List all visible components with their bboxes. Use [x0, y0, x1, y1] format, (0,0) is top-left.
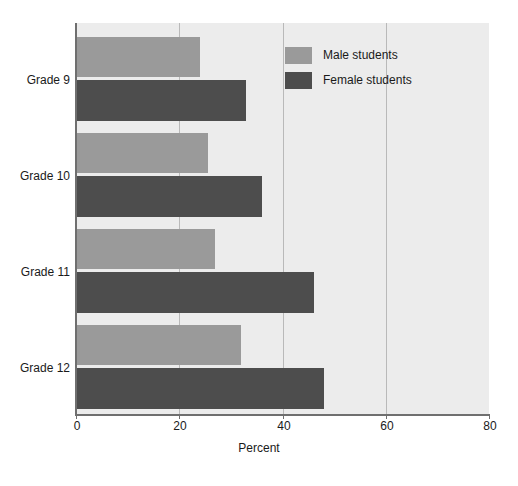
chart-legend: Male students Female students — [285, 45, 460, 95]
legend-item-male: Male students — [285, 45, 460, 65]
y-axis-line — [75, 23, 77, 414]
x-axis-title: Percent — [0, 441, 518, 455]
bar-grade-10-female — [76, 176, 262, 217]
y-axis-label-grade-12: Grade 12 — [2, 361, 70, 375]
legend-swatch-male-icon — [285, 47, 312, 64]
legend-label-male: Male students — [323, 48, 398, 62]
x-axis-line — [75, 414, 489, 416]
gridline-40 — [283, 23, 284, 414]
x-axis-title-text: Percent — [238, 441, 279, 455]
bar-chart: Male students Female students Grade 9 Gr… — [0, 0, 518, 486]
plot-area: Male students Female students — [76, 23, 489, 414]
legend-item-female: Female students — [285, 70, 460, 90]
y-axis-label-grade-11: Grade 11 — [2, 265, 70, 279]
y-axis-label-grade-10: Grade 10 — [2, 169, 70, 183]
x-tick-label-0: 0 — [74, 419, 81, 433]
bar-grade-11-female — [76, 272, 314, 313]
bar-grade-12-female — [76, 368, 324, 409]
x-axis-labels: 0 20 40 60 80 — [0, 419, 518, 439]
bar-grade-10-male — [76, 133, 208, 173]
x-tick-label-40: 40 — [277, 419, 290, 433]
legend-label-female: Female students — [323, 73, 412, 87]
x-tick-label-20: 20 — [173, 419, 186, 433]
bar-grade-9-male — [76, 37, 200, 77]
y-axis-labels: Grade 9 Grade 10 Grade 11 Grade 12 — [0, 0, 70, 486]
bar-grade-12-male — [76, 325, 241, 365]
legend-swatch-female-icon — [285, 72, 312, 89]
x-tick-label-80: 80 — [483, 419, 496, 433]
x-tick-label-60: 60 — [380, 419, 393, 433]
bar-grade-9-female — [76, 80, 246, 121]
bar-grade-11-male — [76, 229, 215, 269]
y-axis-label-grade-9: Grade 9 — [2, 73, 70, 87]
